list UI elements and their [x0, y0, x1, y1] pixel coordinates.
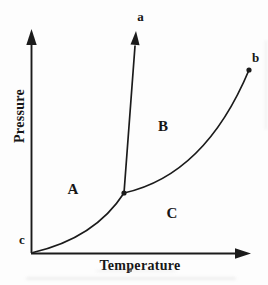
point-label-b: b [252, 50, 259, 65]
point-label-c: c [19, 232, 25, 247]
line-junction-to-a [124, 46, 135, 193]
scan-artifact [96, 270, 176, 272]
arrowhead-a-icon [131, 31, 140, 45]
point-b-dot [246, 67, 251, 72]
scan-artifact [26, 277, 236, 280]
y-axis-arrowhead-icon [26, 29, 36, 45]
junction-point-dot [121, 190, 126, 195]
scan-artifact-speck [129, 268, 132, 272]
curve-junction-to-b [124, 70, 249, 193]
region-label-C: C [167, 205, 178, 221]
x-axis-arrowhead-icon [235, 248, 251, 258]
region-label-A: A [68, 181, 79, 197]
scan-artifact [265, 40, 267, 130]
curve-c-to-junction [33, 193, 124, 253]
point-label-a: a [137, 9, 144, 24]
y-axis-title: Pressure [12, 89, 27, 143]
region-label-B: B [158, 118, 168, 134]
phase-diagram-canvas: a b c A B C Pressure Temperature [0, 0, 268, 285]
phase-diagram-figure: a b c A B C Pressure Temperature [0, 0, 268, 285]
